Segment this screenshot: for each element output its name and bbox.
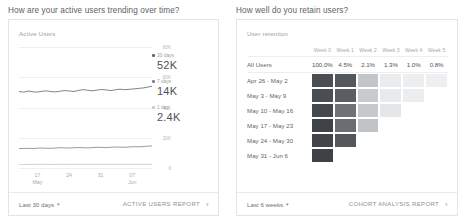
retention-heatmap-cell[interactable] [311, 133, 334, 148]
retention-all-users-value: 1.3% [379, 57, 402, 73]
legend-series-label: 30 days [157, 53, 174, 58]
dashboard-cards: How are your active users trending over … [0, 0, 467, 221]
y-axis-tick-label: 0 [155, 166, 171, 171]
retention-heatmap-cell[interactable] [311, 148, 334, 163]
legend-head: 30 days [152, 53, 210, 58]
chevron-down-icon: ▾ [57, 201, 60, 207]
active-users-chart: 80K60K40K20K017May243107Jun 30 days52K7 … [9, 41, 218, 192]
retention-row-label: All Users [247, 57, 311, 73]
heatmap-swatch [312, 74, 333, 87]
chevron-right-icon: › [206, 200, 209, 209]
retention-heatmap-cell[interactable] [334, 118, 357, 133]
chevron-right-icon: › [445, 200, 448, 209]
retention-all-users-value: 100.0% [311, 57, 334, 73]
retention-heatmap-cell [425, 118, 448, 133]
heatmap-swatch [358, 119, 379, 132]
heatmap-swatch [380, 74, 401, 87]
retention-row-label: May 24 - May 30 [247, 133, 311, 148]
retention-table-body: All Users100.0%4.5%2.1%1.3%1.0%0.8%Apr 2… [247, 57, 448, 164]
retention-heatmap-cell[interactable] [425, 73, 448, 89]
retention-all-users-value: 2.1% [357, 57, 380, 73]
heatmap-swatch [380, 89, 401, 102]
chevron-down-icon: ▾ [286, 201, 289, 207]
retention-heatmap-cell[interactable] [357, 118, 380, 133]
heatmap-swatch [403, 74, 424, 87]
retention-heatmap-cell [402, 148, 425, 163]
retention-heatmap-cell [334, 148, 357, 163]
panel-title-retention: How well do you retain users? [228, 0, 467, 15]
legend-series-value: 14K [157, 85, 210, 97]
active-users-card: Active Users 80K60K40K20K017May243107Jun… [8, 19, 219, 216]
retention-row-label: Apr 26 - May 2 [247, 73, 311, 89]
retention-cohort-row: May 17 - May 23 [247, 118, 448, 133]
retention-column-header: Week 4 [402, 43, 425, 57]
y-axis-tick-label: 80K [155, 45, 171, 50]
retention-heatmap-cell[interactable] [334, 133, 357, 148]
legend-series-label: 1 day [157, 105, 169, 110]
retention-all-users-row: All Users100.0%4.5%2.1%1.3%1.0%0.8% [247, 57, 448, 73]
retention-row-label: May 31 - Jun 6 [247, 148, 311, 163]
retention-heatmap-cell [357, 148, 380, 163]
retention-all-users-value: 0.8% [425, 57, 448, 73]
report-link-label: COHORT ANALYSIS REPORT [349, 201, 439, 207]
retention-heatmap-cell[interactable] [379, 88, 402, 103]
retention-heatmap-cell [379, 118, 402, 133]
retention-cohort-row: May 31 - Jun 6 [247, 148, 448, 163]
heatmap-swatch [312, 149, 333, 162]
retention-heatmap-cell [425, 103, 448, 118]
retention-heatmap-cell[interactable] [357, 73, 380, 89]
retention-heatmap-cell[interactable] [402, 88, 425, 103]
retention-heatmap-cell [425, 133, 448, 148]
retention-heatmap-cell [402, 103, 425, 118]
retention-heatmap-cell[interactable] [311, 103, 334, 118]
card-footer-active-users: Last 30 days ▾ ACTIVE USERS REPORT › [9, 192, 218, 215]
heatmap-swatch [312, 89, 333, 102]
retention-row-label: May 10 - May 16 [247, 103, 311, 118]
retention-heatmap-cell[interactable] [379, 103, 402, 118]
retention-heatmap-cell[interactable] [357, 103, 380, 118]
date-range-selector-retention[interactable]: Last 6 weeks ▾ [247, 201, 289, 208]
retention-heatmap-cell[interactable] [357, 88, 380, 103]
legend-head: 7 days [152, 79, 210, 84]
retention-row-label: May 17 - May 23 [247, 118, 311, 133]
x-axis-tick-label: 17May [33, 172, 43, 185]
retention-heatmap-cell[interactable] [334, 88, 357, 103]
report-link-label: ACTIVE USERS REPORT [123, 201, 200, 207]
cohort-analysis-report-link[interactable]: COHORT ANALYSIS REPORT › [349, 200, 448, 209]
legend-item[interactable]: 1 day2.4K [152, 105, 210, 123]
legend-series-value: 2.4K [157, 111, 210, 123]
chart-legend: 30 days52K7 days14K1 day2.4K [152, 53, 210, 131]
retention-table: Week 0Week 1Week 2Week 3Week 4Week 5 All… [247, 43, 448, 163]
x-axis-tick-label: 24 [66, 172, 72, 179]
date-range-selector-active-users[interactable]: Last 30 days ▾ [19, 201, 60, 208]
retention-row-label: May 3 - May 9 [247, 88, 311, 103]
retention-heatmap-cell[interactable] [334, 103, 357, 118]
legend-dot-icon [152, 106, 155, 109]
date-range-label: Last 6 weeks [247, 201, 283, 208]
panel-title-active-users: How are your active users trending over … [0, 0, 228, 15]
retention-header-blank [247, 43, 311, 57]
heatmap-swatch [426, 74, 447, 87]
card-label-retention: User retention [237, 20, 457, 37]
active-users-report-link[interactable]: ACTIVE USERS REPORT › [123, 200, 209, 209]
retention-heatmap-cell[interactable] [402, 73, 425, 89]
chart-line-7-days [19, 146, 152, 149]
x-axis-tick-label: 31 [98, 172, 104, 179]
retention-header-row: Week 0Week 1Week 2Week 3Week 4Week 5 [247, 43, 448, 57]
retention-heatmap-cell[interactable] [379, 73, 402, 89]
retention-heatmap-cell[interactable] [334, 73, 357, 89]
retention-table-head: Week 0Week 1Week 2Week 3Week 4Week 5 [247, 43, 448, 57]
legend-item[interactable]: 7 days14K [152, 79, 210, 97]
retention-heatmap-cell[interactable] [311, 88, 334, 103]
retention-heatmap-cell[interactable] [311, 73, 334, 89]
active-users-panel: How are your active users trending over … [0, 0, 228, 221]
legend-item[interactable]: 30 days52K [152, 53, 210, 71]
legend-head: 1 day [152, 105, 210, 110]
legend-series-value: 52K [157, 59, 210, 71]
heatmap-swatch [403, 89, 424, 102]
heatmap-swatch [380, 104, 401, 117]
heatmap-swatch [335, 119, 356, 132]
y-axis-tick-label: 20K [155, 135, 171, 140]
retention-heatmap-cell[interactable] [311, 118, 334, 133]
chart-series-lines [19, 47, 152, 168]
